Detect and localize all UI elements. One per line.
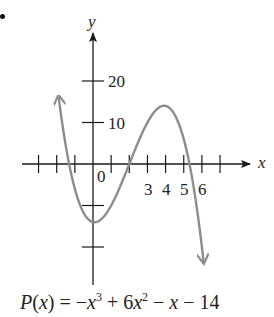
y-axis-label: y xyxy=(88,13,96,30)
x-tick-label-4: 4 xyxy=(162,181,171,198)
polynomial-graph xyxy=(0,0,274,317)
function-formula: P(x) = −x3 + 6x2 − x − 14 xyxy=(20,290,220,314)
x-tick-label-3: 3 xyxy=(144,181,153,198)
y-tick-label-10: 10 xyxy=(108,115,125,132)
x-tick-label-6: 6 xyxy=(198,181,207,198)
origin-label: 0 xyxy=(97,168,106,185)
x-tick-label-5: 5 xyxy=(180,181,189,198)
y-tick-label-20: 20 xyxy=(108,73,125,90)
x-axis-label: x xyxy=(258,154,266,171)
